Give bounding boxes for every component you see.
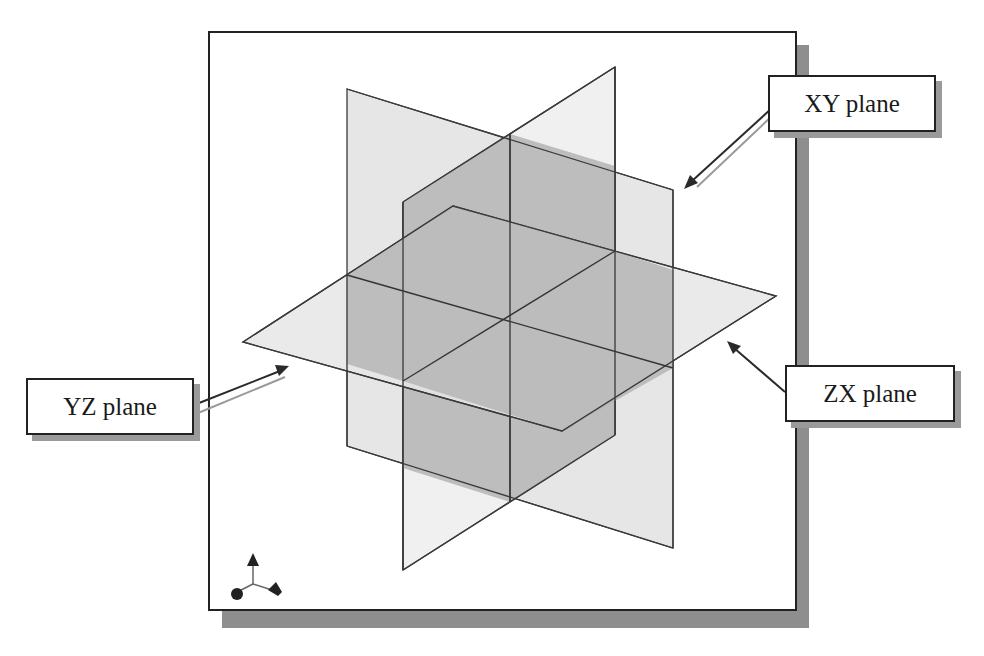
xy-plane-label: XY plane — [768, 75, 936, 132]
zx-plane-label-text: ZX plane — [823, 380, 917, 408]
yz-plane-label-text: YZ plane — [63, 393, 157, 421]
zx-plane-label: ZX plane — [785, 365, 955, 422]
xy-plane-label-text: XY plane — [804, 90, 900, 118]
yz-plane-label: YZ plane — [26, 378, 194, 435]
datum-planes-figure: XY plane YZ plane ZX plane — [0, 0, 984, 656]
